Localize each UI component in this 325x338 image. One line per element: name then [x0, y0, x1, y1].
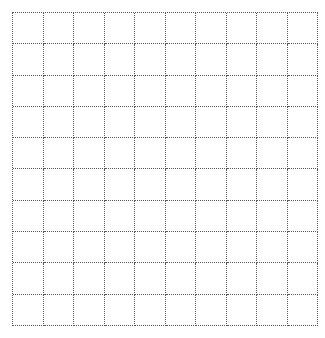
grid-cell — [227, 169, 258, 200]
grid-cell — [44, 76, 75, 107]
grid-cell — [257, 13, 288, 44]
grid-cell — [13, 138, 44, 169]
grid-cell — [257, 169, 288, 200]
grid-cell — [105, 13, 136, 44]
grid-cell — [227, 76, 258, 107]
grid-cell — [257, 295, 288, 326]
grid-cell — [44, 13, 75, 44]
grid-cell — [74, 201, 105, 232]
grid-cell — [196, 295, 227, 326]
grid-cell — [166, 169, 197, 200]
grid-cell — [44, 138, 75, 169]
grid-cell — [105, 169, 136, 200]
grid-cell — [13, 13, 44, 44]
grid-cell — [196, 76, 227, 107]
grid-cell — [74, 13, 105, 44]
grid-cell — [227, 13, 258, 44]
grid-cell — [105, 201, 136, 232]
grid-cell — [196, 13, 227, 44]
grid-cell — [135, 44, 166, 75]
grid-cell — [166, 107, 197, 138]
grid-cell — [135, 263, 166, 294]
grid-cell — [44, 44, 75, 75]
grid-cell — [227, 295, 258, 326]
grid-cell — [74, 295, 105, 326]
grid-cell — [227, 44, 258, 75]
grid-cell — [196, 138, 227, 169]
grid-cell — [44, 107, 75, 138]
grid-cell — [135, 76, 166, 107]
canvas — [0, 0, 325, 338]
grid-cell — [74, 138, 105, 169]
grid-cell — [196, 201, 227, 232]
grid-cell — [196, 107, 227, 138]
grid-cell — [74, 107, 105, 138]
grid-cell — [288, 263, 319, 294]
grid-cell — [13, 295, 44, 326]
grid-cell — [166, 76, 197, 107]
grid-cell — [257, 76, 288, 107]
grid-cell — [105, 232, 136, 263]
grid-cell — [257, 232, 288, 263]
grid-cell — [13, 201, 44, 232]
grid-cell — [44, 295, 75, 326]
grid-cell — [105, 263, 136, 294]
grid-cell — [44, 201, 75, 232]
grid-cell — [166, 263, 197, 294]
grid-cell — [166, 295, 197, 326]
grid-cell — [166, 138, 197, 169]
grid-cell — [288, 13, 319, 44]
grid-cell — [166, 44, 197, 75]
grid-cell — [288, 201, 319, 232]
grid-cell — [13, 107, 44, 138]
grid-cell — [288, 107, 319, 138]
grid-cell — [13, 76, 44, 107]
grid-cell — [257, 44, 288, 75]
grid-cell — [135, 13, 166, 44]
grid-cell — [105, 295, 136, 326]
grid-cell — [135, 107, 166, 138]
grid-cell — [44, 232, 75, 263]
grid-cell — [135, 138, 166, 169]
grid-cell — [13, 263, 44, 294]
grid-cell — [227, 138, 258, 169]
grid-cell — [227, 263, 258, 294]
grid-cell — [257, 263, 288, 294]
grid-cell — [288, 232, 319, 263]
grid-cell — [44, 169, 75, 200]
grid-cell — [227, 107, 258, 138]
grid-cell — [13, 169, 44, 200]
grid-cell — [288, 44, 319, 75]
grid-cell — [288, 76, 319, 107]
grid-cell — [105, 107, 136, 138]
grid-cell — [135, 169, 166, 200]
grid-cell — [105, 76, 136, 107]
grid-cell — [74, 76, 105, 107]
grid-cell — [196, 44, 227, 75]
grid-cell — [227, 232, 258, 263]
grid-cell — [227, 201, 258, 232]
grid-cell — [105, 138, 136, 169]
grid-cell — [288, 138, 319, 169]
grid-cell — [74, 44, 105, 75]
grid-cell — [105, 44, 136, 75]
grid-cell — [257, 201, 288, 232]
grid-cell — [74, 232, 105, 263]
grid-cell — [196, 263, 227, 294]
grid-cell — [135, 295, 166, 326]
grid-cell — [257, 138, 288, 169]
grid-cell — [74, 263, 105, 294]
grid-cell — [166, 201, 197, 232]
grid-cell — [166, 13, 197, 44]
grid-cell — [196, 169, 227, 200]
grid-cell — [288, 169, 319, 200]
dotted-grid — [12, 12, 318, 326]
grid-cell — [44, 263, 75, 294]
grid-cell — [135, 232, 166, 263]
grid-cell — [257, 107, 288, 138]
grid-cell — [13, 232, 44, 263]
grid-cell — [288, 295, 319, 326]
grid-cell — [166, 232, 197, 263]
grid-cell — [74, 169, 105, 200]
grid-cell — [135, 201, 166, 232]
